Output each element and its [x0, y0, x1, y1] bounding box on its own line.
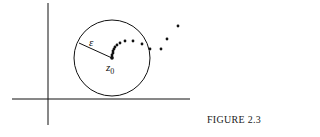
- figure-caption: FIGURE 2.3: [207, 114, 261, 125]
- sequence-point: [132, 40, 135, 43]
- radius-line: [79, 43, 112, 58]
- sequence-point: [119, 42, 122, 45]
- sequence-point: [177, 25, 180, 28]
- sequence-point: [149, 48, 152, 51]
- sequence-point: [166, 38, 169, 41]
- center-label: z0: [105, 61, 114, 76]
- sequence-point: [160, 48, 163, 51]
- sequence-point: [141, 43, 144, 46]
- sequence-points: [110, 25, 179, 60]
- sequence-point: [124, 40, 127, 43]
- epsilon-label: ε: [89, 36, 94, 48]
- sequence-point: [116, 44, 119, 47]
- sequence-point: [110, 56, 114, 60]
